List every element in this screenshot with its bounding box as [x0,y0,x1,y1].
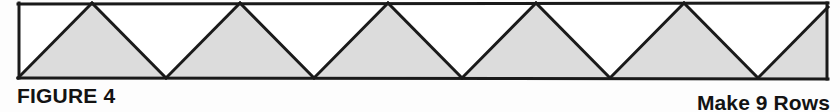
band-top-edge [18,3,828,4]
figure-label: FIGURE 4 [17,83,115,109]
triangle-band [0,0,840,84]
triangle-band-svg [0,0,840,84]
make-rows-instruction: Make 9 Rows [697,90,830,112]
figure-4-illustration: FIGURE 4 Make 9 Rows [0,0,840,112]
caption-row: FIGURE 4 Make 9 Rows [0,80,840,112]
band-bottom-edge [18,78,828,79]
